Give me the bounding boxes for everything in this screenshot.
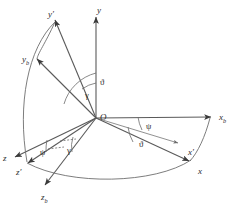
axis-label-y-prime-mark: ′ bbox=[52, 9, 54, 19]
origin-label: O bbox=[100, 113, 107, 122]
axis-y-prime bbox=[55, 20, 96, 118]
diagram-canvas bbox=[0, 0, 235, 210]
angle-label-psi-right-glyph: ψ bbox=[146, 121, 151, 131]
axis-z-prime bbox=[28, 118, 96, 163]
angle-label-psi-right: ψ bbox=[146, 122, 151, 131]
euler-angle-diagram: y′ y yb xb x′ x z z′ zb O ϑ γ ψ ϑ ψ bbox=[0, 0, 235, 210]
angle-label-psi-left-glyph: ψ bbox=[40, 147, 45, 157]
angle-label-theta-upper: ϑ bbox=[100, 78, 104, 87]
angle-label-theta-right-glyph: ϑ bbox=[139, 139, 143, 149]
axis-label-x-prime: x′ bbox=[188, 148, 194, 157]
arc-inner-meridian bbox=[37, 22, 55, 59]
angle-label-theta-upper-glyph: ϑ bbox=[100, 77, 104, 87]
angle-label-gamma-upper: γ bbox=[85, 91, 89, 100]
axis-y-b bbox=[37, 59, 96, 118]
axis-label-x-prime-mark: ′ bbox=[192, 147, 194, 157]
axis-z bbox=[15, 118, 96, 157]
angle-arc-psi-right bbox=[138, 117, 142, 130]
axis-label-x-b: xb bbox=[219, 113, 226, 124]
angle-label-gamma-left-glyph: γ bbox=[67, 145, 71, 155]
axis-label-y-prime: y′ bbox=[48, 10, 54, 19]
angle-arc-gamma-upper bbox=[64, 73, 96, 104]
angle-label-gamma-upper-glyph: γ bbox=[85, 90, 89, 100]
axis-label-y-b-sub: b bbox=[26, 59, 29, 66]
axis-label-z-b-sub: b bbox=[45, 197, 48, 204]
angle-arc-theta-upper bbox=[82, 83, 96, 89]
axis-x-prime bbox=[96, 118, 178, 143]
axis-label-z: z bbox=[3, 154, 7, 163]
angle-label-psi-left: ψ bbox=[40, 148, 45, 157]
axis-label-z-prime-mark: ′ bbox=[20, 167, 22, 177]
axis-label-z-prime: z′ bbox=[16, 168, 21, 177]
origin-label-text: O bbox=[100, 112, 107, 122]
axis-x-b bbox=[96, 117, 211, 118]
axis-label-y-main: y bbox=[97, 5, 101, 15]
axis-label-y: y bbox=[97, 6, 101, 15]
axis-label-z-main: z bbox=[3, 153, 7, 163]
axis-label-x-b-sub: b bbox=[223, 117, 226, 124]
axis-label-z-b: zb bbox=[41, 193, 48, 204]
axis-label-y-b: yb bbox=[22, 55, 29, 66]
angle-label-theta-right: ϑ bbox=[139, 140, 143, 149]
arc-y-prime-to-z-prime bbox=[23, 22, 55, 162]
axis-label-x: x bbox=[198, 167, 202, 176]
angle-label-gamma-left: γ bbox=[67, 146, 71, 155]
axis-label-x-main: x bbox=[198, 166, 202, 176]
